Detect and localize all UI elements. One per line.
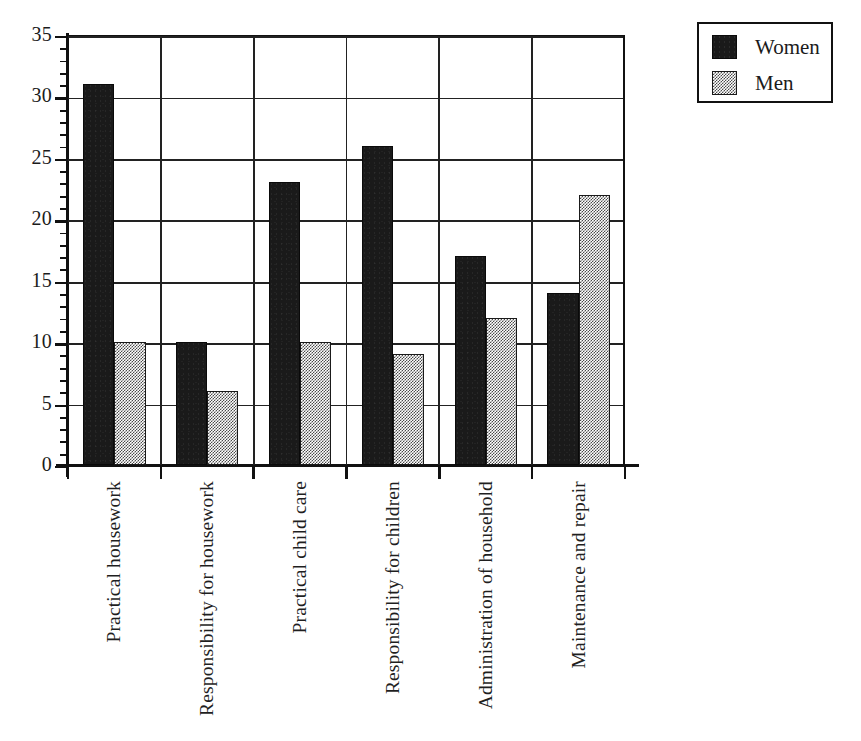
bar-women-1 [83,84,114,465]
x-category-label-5: Administration of household [439,481,532,696]
y-tick-minor [60,331,68,333]
bar-men-1 [114,342,145,465]
y-axis-tick-label: 25 [32,147,52,167]
x-tick [67,466,69,479]
y-tick-minor [60,319,68,321]
y-tick-minor [60,355,68,357]
x-category-label-text: Responsibility for children [383,481,403,694]
plot-inner [68,37,623,465]
bar-women-6 [547,293,578,465]
y-tick-minor [60,294,68,296]
y-tick-major [55,282,68,284]
y-axis-tick-label: 5 [42,393,52,413]
solid-black-swatch [712,35,737,59]
y-tick-minor [60,183,68,185]
y-tick-minor [60,85,68,87]
x-tick [252,466,254,479]
y-tick-minor [60,233,68,235]
y-axis-labels: 05101520253035 [0,35,52,465]
stipple-swatch [712,71,737,95]
y-tick-minor [60,134,68,136]
y-axis-tick-label: 0 [42,454,52,474]
bar-men-6 [579,195,610,465]
y-tick-major [55,220,68,222]
bar-men-4 [393,354,424,465]
x-category-label-6: Maintenance and repair [532,481,625,696]
y-axis-tick-label: 20 [32,208,52,228]
y-tick-minor [60,147,68,149]
y-tick-major [55,405,68,407]
y-tick-minor [60,196,68,198]
x-tick [624,466,626,479]
bar-women-3 [269,182,300,465]
x-category-label-2: Responsibility for housework [161,481,254,696]
y-axis-tick-label: 15 [32,270,52,290]
y-tick-minor [60,257,68,259]
x-category-label-text: Responsibility for housework [197,481,217,716]
bar-men-5 [486,318,517,465]
y-tick-major [55,36,68,38]
y-tick-minor [60,61,68,63]
y-tick-minor [60,245,68,247]
y-tick-minor [60,269,68,271]
gridline-vertical [531,37,533,465]
gridline-vertical [253,37,255,465]
y-axis-tick-label: 30 [32,85,52,105]
bar-women-5 [455,256,486,465]
plot-area [68,35,625,465]
y-tick-minor [60,48,68,50]
bar-women-4 [362,146,393,465]
y-tick-minor [60,73,68,75]
bar-chart-figure: 05101520253035 Practical houseworkRespon… [0,0,861,741]
x-axis-ticks [68,466,628,480]
x-category-label-text: Maintenance and repair [569,481,589,668]
y-axis-tick-label: 35 [32,24,52,44]
figure-caption [0,726,861,741]
x-category-label-text: Practical child care [290,481,310,633]
x-tick [160,466,162,479]
y-tick-minor [60,454,68,456]
x-tick [531,466,533,479]
legend-label-text: Men [755,73,794,94]
chart-legend: WomenMen [697,22,833,103]
gridline-vertical [438,37,440,465]
y-tick-minor [60,380,68,382]
x-tick [438,466,440,479]
x-category-label-4: Responsibility for children [347,481,440,696]
y-tick-minor [60,208,68,210]
y-tick-major [55,159,68,161]
legend-item-men[interactable]: Men [712,70,794,96]
y-tick-minor [60,368,68,370]
bar-women-2 [176,342,207,465]
x-category-label-3: Practical child care [254,481,347,696]
x-tick [345,466,347,479]
y-tick-minor [60,441,68,443]
y-tick-major [55,97,68,99]
y-tick-minor [60,171,68,173]
x-category-label-text: Administration of household [476,481,496,709]
gridline-vertical [160,37,162,465]
y-tick-minor [60,110,68,112]
y-tick-minor [60,392,68,394]
y-tick-minor [60,306,68,308]
bar-men-3 [300,342,331,465]
legend-label-text: Women [755,37,820,58]
bar-men-2 [207,391,238,465]
y-tick-minor [60,122,68,124]
y-axis-tick-label: 10 [32,331,52,351]
y-tick-minor [60,417,68,419]
y-tick-minor [60,429,68,431]
x-axis-category-labels: Practical houseworkResponsibility for ho… [68,481,628,696]
gridline-vertical [346,37,348,465]
x-category-label-text: Practical housework [105,481,125,643]
legend-item-women[interactable]: Women [712,34,820,60]
x-category-label-1: Practical housework [68,481,161,696]
y-tick-major [55,343,68,345]
